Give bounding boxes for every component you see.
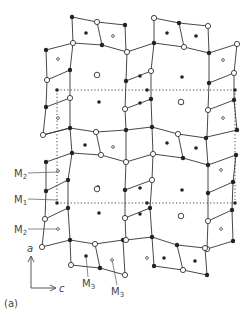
bond-edge bbox=[207, 241, 233, 249]
open-node bbox=[181, 44, 186, 49]
metal-site-dot bbox=[194, 34, 198, 38]
bond-edge bbox=[70, 128, 72, 153]
small-site-dot bbox=[112, 146, 115, 149]
filled-dot bbox=[55, 88, 59, 92]
bond-edge bbox=[151, 99, 152, 127]
bond-edge bbox=[126, 127, 152, 130]
open-node bbox=[68, 262, 73, 267]
filled-node bbox=[123, 23, 127, 27]
bond-edge bbox=[152, 127, 153, 154]
filled-node bbox=[100, 43, 104, 47]
bond-edge bbox=[125, 99, 151, 109]
polyhedra-edges bbox=[42, 17, 237, 275]
metal-site-dot bbox=[97, 211, 101, 215]
metal-site-dot bbox=[138, 212, 142, 216]
bond-edge bbox=[95, 244, 100, 268]
filled-node bbox=[70, 151, 74, 155]
open-node bbox=[202, 245, 207, 250]
bond-edge bbox=[42, 240, 70, 247]
small-site-dot bbox=[220, 228, 223, 231]
open-node bbox=[122, 272, 127, 277]
bond-edge bbox=[72, 153, 101, 155]
bond-edge bbox=[153, 154, 183, 158]
small-site-dot bbox=[112, 35, 115, 38]
bond-edge bbox=[97, 22, 125, 25]
bond-edge bbox=[42, 219, 45, 247]
bond-edge bbox=[154, 43, 184, 47]
filled-node bbox=[44, 160, 48, 164]
small-site-dot bbox=[57, 58, 60, 61]
open-node bbox=[123, 159, 128, 164]
metal-site-dot bbox=[165, 31, 169, 35]
axes-indicator: a c bbox=[27, 243, 65, 294]
bond-edge bbox=[102, 45, 127, 52]
bond-edge bbox=[101, 155, 126, 162]
bond-edge bbox=[177, 245, 205, 248]
bond-edge bbox=[97, 22, 102, 45]
open-node bbox=[67, 95, 72, 100]
bond-edge bbox=[208, 26, 209, 53]
bond-edge bbox=[46, 50, 47, 80]
open-node bbox=[44, 77, 49, 82]
filled-dot bbox=[233, 88, 237, 92]
site-label-m3: M3 bbox=[111, 286, 124, 299]
bond-edge bbox=[96, 130, 126, 132]
open-node bbox=[234, 41, 239, 46]
bond-edge bbox=[68, 153, 72, 180]
filled-node bbox=[98, 266, 102, 270]
open-node bbox=[148, 68, 153, 73]
small-site-dot bbox=[57, 170, 60, 173]
metal-site-dot bbox=[97, 100, 101, 104]
metal-site-dot bbox=[194, 146, 198, 150]
c-axis-label: c bbox=[59, 283, 65, 294]
bond-edge bbox=[183, 158, 208, 165]
filled-node bbox=[231, 239, 235, 243]
open-node bbox=[175, 131, 180, 136]
open-center-node bbox=[178, 99, 184, 105]
filled-node bbox=[230, 208, 234, 212]
metal-site-dot bbox=[138, 101, 142, 105]
filled-node bbox=[181, 156, 185, 160]
metal-site-dot bbox=[84, 254, 88, 258]
bond-edge bbox=[152, 237, 177, 245]
open-node bbox=[205, 23, 210, 28]
bond-edge bbox=[209, 73, 234, 83]
bond-edge bbox=[46, 80, 47, 107]
bond-edge bbox=[47, 70, 70, 80]
filled-node bbox=[177, 21, 181, 25]
bond-edge bbox=[70, 240, 71, 265]
filled-dot bbox=[145, 201, 149, 205]
filled-node bbox=[44, 105, 48, 109]
filled-dot bbox=[145, 88, 149, 92]
small-site-dot bbox=[220, 169, 223, 172]
bond-edge bbox=[71, 265, 100, 268]
bond-edge bbox=[100, 268, 125, 275]
bond-edge bbox=[208, 83, 209, 110]
filled-node bbox=[66, 206, 70, 210]
metal-site-dot bbox=[138, 186, 142, 190]
open-center-node bbox=[94, 72, 100, 78]
bond-edge bbox=[152, 127, 178, 134]
small-site-dot bbox=[146, 257, 149, 260]
metal-site-dot bbox=[138, 74, 142, 78]
filled-node bbox=[124, 79, 128, 83]
bond-edge bbox=[123, 240, 125, 275]
bond-edge bbox=[126, 237, 152, 240]
metal-site-dot bbox=[193, 259, 197, 263]
bond-edge bbox=[209, 44, 237, 53]
open-center-node bbox=[94, 186, 100, 192]
filled-node bbox=[149, 97, 153, 101]
bond-edge bbox=[152, 237, 154, 266]
small-site-dot bbox=[57, 228, 60, 231]
bond-edge bbox=[73, 43, 102, 45]
bond-edge bbox=[208, 182, 233, 193]
open-node bbox=[231, 70, 236, 75]
open-node bbox=[205, 218, 210, 223]
bond-edge bbox=[45, 191, 46, 219]
metal-site-dot bbox=[162, 256, 166, 260]
bond-edge bbox=[152, 154, 153, 180]
open-node bbox=[149, 177, 154, 182]
bond-edge bbox=[232, 182, 233, 210]
bond-edge bbox=[178, 134, 206, 138]
filled-node bbox=[207, 51, 211, 55]
